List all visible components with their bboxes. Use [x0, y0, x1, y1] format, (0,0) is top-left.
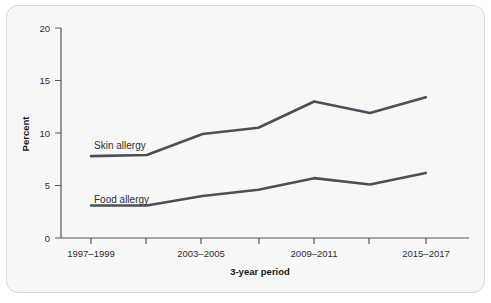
x-axis-ticks — [91, 238, 426, 244]
x-tick-label-2015-2017: 2015–2017 — [402, 248, 450, 259]
y-tick-label-10: 10 — [39, 128, 50, 139]
x-tick-label-2003-2005: 2003–2005 — [177, 248, 225, 259]
y-axis-ticks — [55, 28, 61, 238]
y-axis-tick-labels: 20 15 10 5 0 — [39, 23, 50, 244]
series-label-food-allergy: Food allergy — [94, 194, 149, 205]
chart-card: 20 15 10 5 0 Percent — [6, 5, 485, 293]
series-labels: Skin allergy Food allergy — [94, 140, 149, 205]
y-tick-label-0: 0 — [45, 233, 50, 244]
x-axis-group: 1997–1999 2003–2005 2009–2011 2015–2017 … — [61, 238, 469, 277]
series-label-skin-allergy: Skin allergy — [94, 140, 146, 151]
x-axis-title: 3-year period — [230, 266, 290, 277]
y-tick-label-20: 20 — [39, 23, 50, 34]
chart-svg: 20 15 10 5 0 Percent — [7, 6, 485, 293]
y-axis-title: Percent — [20, 116, 31, 152]
y-tick-label-15: 15 — [39, 75, 50, 86]
x-tick-label-2009-2011: 2009–2011 — [291, 248, 338, 259]
x-tick-label-1997-1999: 1997–1999 — [67, 248, 115, 259]
x-axis-tick-labels: 1997–1999 2003–2005 2009–2011 2015–2017 — [67, 248, 450, 259]
series-group — [91, 97, 426, 205]
line-chart: 20 15 10 5 0 Percent — [7, 6, 485, 293]
y-axis-group: 20 15 10 5 0 Percent — [20, 23, 61, 244]
y-tick-label-5: 5 — [45, 180, 50, 191]
